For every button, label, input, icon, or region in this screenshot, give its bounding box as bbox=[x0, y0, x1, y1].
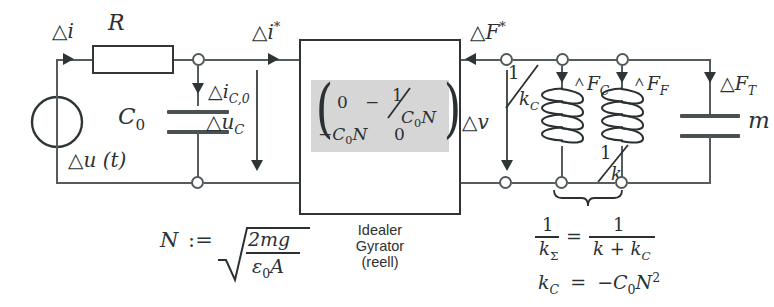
label-delta-i-star: △i* bbox=[252, 19, 280, 44]
coil-2 bbox=[598, 86, 648, 150]
formula-n-definition-denominator: ε0A bbox=[252, 255, 284, 281]
matrix-entry-12-den: C0N bbox=[401, 107, 436, 130]
node-top-c0 bbox=[192, 53, 205, 66]
force-arrow-fc bbox=[556, 72, 568, 83]
formula-n-definition-numerator: 2mg bbox=[248, 228, 290, 250]
formula-stiffness-rhs-den: k + kC bbox=[593, 238, 650, 263]
label-capacitor-c0: C0 bbox=[118, 103, 145, 134]
label-delta-f-t: △FT bbox=[720, 72, 756, 98]
gyrator-caption-line1: Idealer bbox=[300, 222, 460, 238]
wire-bottom-nodeB-to-block bbox=[204, 182, 300, 184]
formula-stiffness-lhs-num: 1 bbox=[542, 214, 553, 235]
voltage-arrow-uc-head bbox=[251, 160, 263, 171]
wire-mass-lead-top bbox=[709, 59, 711, 115]
wire-bottom-nodeD-to-coil1 bbox=[512, 182, 555, 184]
stiffness-brace bbox=[552, 188, 624, 208]
formula-stiffness-lhs-den: kΣ bbox=[539, 238, 558, 263]
current-arrow-i-star bbox=[268, 53, 279, 65]
node-coil1-top bbox=[556, 53, 569, 66]
wire-bottom-coil2-to-mass bbox=[628, 182, 711, 184]
label-resistor: R bbox=[108, 10, 125, 35]
gyrator-caption-line2: Gyrator bbox=[300, 238, 460, 254]
wire-bottom-left bbox=[56, 182, 197, 184]
resistor-R bbox=[92, 45, 174, 74]
wire-nodeA-to-block bbox=[205, 59, 300, 61]
wire-source-vertical bbox=[56, 59, 58, 184]
wire-bottom-coil1-to-coil2 bbox=[568, 182, 615, 184]
wire-nodeC-to-coil1 bbox=[513, 59, 562, 61]
matrix-entry-21: −C0N bbox=[318, 124, 367, 147]
wire-coil1-to-coil2 bbox=[569, 59, 622, 61]
label-delta-v: △v bbox=[462, 110, 489, 134]
force-arrow-ft bbox=[704, 72, 716, 83]
force-arrow-f-star bbox=[465, 53, 476, 65]
wire-coil1-lead-bottom bbox=[561, 146, 563, 180]
wire-coil2-to-mass bbox=[629, 59, 711, 61]
matrix-paren-right: ) bbox=[444, 76, 461, 140]
formula-n-definition-bar bbox=[246, 252, 300, 254]
current-arrow-ic0 bbox=[192, 83, 204, 94]
mass-plate-top bbox=[680, 114, 740, 118]
gyrator-caption-line3: (reell) bbox=[300, 254, 460, 270]
label-coil1-den: kC bbox=[519, 88, 539, 113]
node-coil2-top bbox=[616, 53, 629, 66]
matrix-entry-11: 0 bbox=[337, 92, 348, 112]
velocity-arrow-head bbox=[501, 160, 513, 171]
formula-kc: kC = −C0N2 bbox=[538, 270, 660, 297]
coil-1 bbox=[538, 86, 588, 150]
label-delta-f-star: △F* bbox=[470, 19, 506, 44]
formula-stiffness-rhs-num: 1 bbox=[613, 214, 624, 235]
label-delta-i: △i bbox=[52, 19, 74, 43]
current-arrow-input bbox=[63, 53, 74, 65]
label-mass: m bbox=[748, 107, 770, 133]
node-bottom-c0 bbox=[191, 176, 204, 189]
voltage-arrow-uc-shaft bbox=[256, 70, 258, 166]
formula-n-definition-lhs: N := bbox=[160, 228, 213, 252]
force-arrow-ff bbox=[616, 72, 628, 83]
matrix-entry-22: 0 bbox=[394, 124, 405, 144]
wire-mass-lead-bottom bbox=[709, 136, 711, 182]
node-bottom-v bbox=[499, 176, 512, 189]
matrix-entry-12: − bbox=[365, 92, 379, 112]
circuit-diagram: △i R △i* △u (t) △iC,0 C0 △uC bbox=[0, 0, 774, 307]
gyrator-caption: Idealer Gyrator (reell) bbox=[300, 222, 460, 271]
label-delta-i-c0: △iC,0 bbox=[208, 80, 250, 106]
formula-stiffness-equals: = bbox=[566, 225, 582, 247]
label-delta-u-t: △u (t) bbox=[68, 148, 126, 172]
label-delta-u-c: △uC bbox=[206, 110, 244, 137]
